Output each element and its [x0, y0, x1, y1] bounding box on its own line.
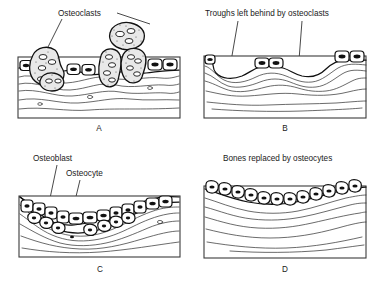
osteoclast-free: [110, 22, 145, 49]
bone-remodeling-figure: Osteoclasts: [0, 0, 381, 283]
osteoclast-attached-mid: [99, 49, 122, 87]
panel-b: Troughs left behind by osteoclasts: [190, 0, 381, 141]
panel-letter-b: B: [282, 124, 288, 133]
panel-c: Osteoblast Osteocyte: [0, 141, 190, 283]
osteoclast-attached-right: [121, 48, 146, 82]
bone-block-b: [204, 56, 366, 118]
bones-replaced-label: Bones replaced by osteocytes: [223, 154, 332, 163]
troughs-label: Troughs left behind by osteoclasts: [205, 9, 329, 18]
osteoblast-label: Osteoblast: [33, 154, 73, 163]
leader-line-left: [46, 19, 62, 51]
panel-d: Bones replaced by osteocytes: [190, 141, 381, 283]
osteoclasts-label: Osteoclasts: [58, 9, 101, 18]
osteocyte-label: Osteocyte: [66, 169, 103, 178]
panel-letter-c: C: [97, 265, 103, 274]
osteoclast-attached-small: [40, 73, 64, 91]
panel-letter-d: D: [282, 265, 288, 274]
panel-letter-a: A: [96, 124, 102, 133]
panel-a: Osteoclasts: [0, 0, 190, 141]
